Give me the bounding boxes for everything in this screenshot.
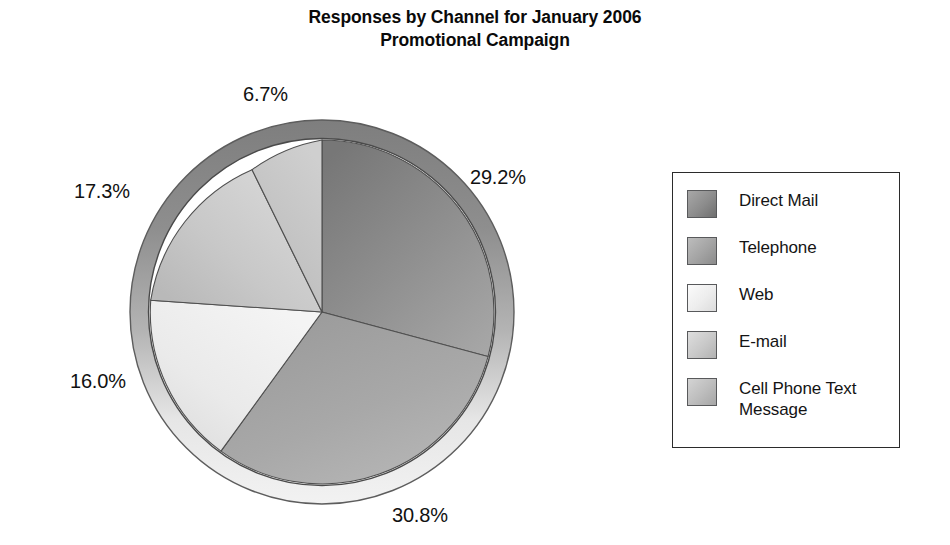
legend-item-web: Web [687, 282, 889, 312]
legend-swatch-web [687, 284, 717, 312]
pie-chart-graphic [128, 118, 516, 506]
pie-label-direct-mail: 29.2% [470, 166, 526, 189]
legend-label-web: Web [739, 282, 773, 305]
legend-swatch-cell-phone-text-message [687, 378, 717, 406]
legend-label-direct-mail: Direct Mail [739, 188, 818, 211]
chart-title-line-2: Promotional Campaign [0, 29, 950, 52]
page-title: Responses by Channel for January 2006 Pr… [0, 6, 950, 52]
legend-swatch-email [687, 331, 717, 359]
pie-label-email: 17.3% [74, 180, 130, 203]
legend-item-cell-phone-text-message: Cell Phone Text Message [687, 376, 889, 420]
chart-title-line-1: Responses by Channel for January 2006 [0, 6, 950, 29]
pie-chart-figure: Responses by Channel for January 2006 Pr… [0, 0, 950, 545]
legend-item-email: E-mail [687, 329, 889, 359]
legend-swatch-telephone [687, 237, 717, 265]
legend-item-telephone: Telephone [687, 235, 889, 265]
pie-label-telephone: 30.8% [392, 504, 448, 527]
pie-svg [128, 118, 516, 506]
legend-label-email: E-mail [739, 329, 787, 352]
pie-label-cell-phone-text-message: 6.7% [243, 83, 288, 106]
chart-legend: Direct Mail Telephone Web E-mail Cell Ph… [672, 172, 900, 448]
legend-item-direct-mail: Direct Mail [687, 188, 889, 218]
pie-label-web: 16.0% [70, 370, 126, 393]
legend-label-cell-phone-text-message: Cell Phone Text Message [739, 376, 889, 420]
legend-swatch-direct-mail [687, 190, 717, 218]
legend-label-telephone: Telephone [739, 235, 817, 258]
